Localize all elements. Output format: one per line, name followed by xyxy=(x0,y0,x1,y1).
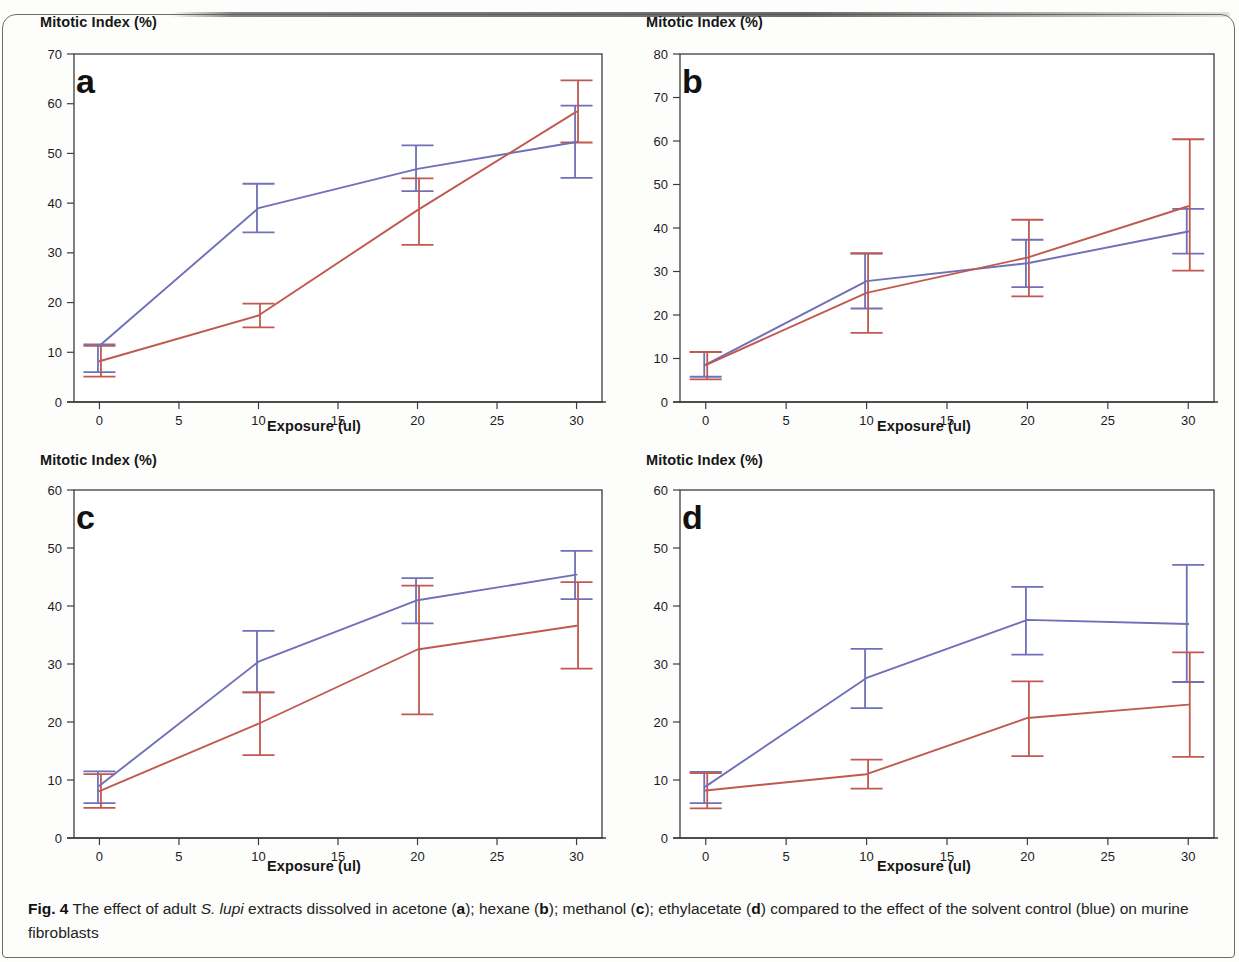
y-tick-label: 80 xyxy=(654,47,668,62)
y-tick-label: 30 xyxy=(654,264,668,279)
caption-text-3: ); hexane ( xyxy=(465,900,539,917)
panel-b-plot: 01020304050607080051015202530 xyxy=(620,14,1228,444)
caption-ref-d: d xyxy=(751,900,760,917)
chart-panel-grid: Mitotic Index (%) 0102030405060700510152… xyxy=(0,0,1239,886)
y-tick-label: 20 xyxy=(654,715,668,730)
y-tick-label: 60 xyxy=(654,483,668,498)
panel-a-plot: 010203040506070051015202530 xyxy=(14,14,614,444)
chart-panel-a: Mitotic Index (%) 0102030405060700510152… xyxy=(14,14,614,444)
caption-text-1: The effect of adult xyxy=(68,900,200,917)
y-tick-label: 10 xyxy=(654,773,668,788)
y-tick-label: 40 xyxy=(654,599,668,614)
y-tick-label: 60 xyxy=(48,96,62,111)
caption-text-4: ); methanol ( xyxy=(549,900,636,917)
plot-frame xyxy=(74,54,602,402)
y-tick-label: 30 xyxy=(48,245,62,260)
chart-panel-c: Mitotic Index (%) 0102030405060051015202… xyxy=(14,452,614,884)
panel-d-x-axis-title: Exposure (ul) xyxy=(620,858,1228,874)
figure-page: Mitotic Index (%) 0102030405060700510152… xyxy=(0,0,1239,962)
y-tick-label: 70 xyxy=(48,47,62,62)
panel-a-x-axis-title: Exposure (ul) xyxy=(14,418,614,434)
y-tick-label: 50 xyxy=(48,541,62,556)
caption-text-5: ); ethylacetate ( xyxy=(644,900,751,917)
y-tick-label: 0 xyxy=(661,395,668,410)
y-tick-label: 0 xyxy=(55,831,62,846)
caption-ref-b: b xyxy=(539,900,548,917)
plot-frame xyxy=(74,490,602,838)
plot-frame xyxy=(680,54,1214,402)
y-tick-label: 40 xyxy=(48,196,62,211)
caption-text-2: extracts dissolved in acetone ( xyxy=(244,900,457,917)
panel-c-letter: c xyxy=(76,500,95,534)
y-tick-label: 30 xyxy=(654,657,668,672)
figure-caption: Fig. 4 The effect of adult S. lupi extra… xyxy=(28,897,1208,945)
y-tick-label: 10 xyxy=(654,351,668,366)
panel-a-letter: a xyxy=(76,64,95,98)
panel-c-plot: 0102030405060051015202530 xyxy=(14,452,614,884)
y-tick-label: 0 xyxy=(55,395,62,410)
y-tick-label: 10 xyxy=(48,345,62,360)
chart-panel-b: Mitotic Index (%) 0102030405060708005101… xyxy=(620,14,1228,444)
y-tick-label: 0 xyxy=(661,831,668,846)
y-tick-label: 40 xyxy=(48,599,62,614)
y-tick-label: 20 xyxy=(48,295,62,310)
y-tick-label: 10 xyxy=(48,773,62,788)
y-tick-label: 60 xyxy=(654,134,668,149)
figure-label: Fig. 4 xyxy=(28,900,68,917)
panel-c-x-axis-title: Exposure (ul) xyxy=(14,858,614,874)
y-tick-label: 50 xyxy=(654,177,668,192)
y-tick-label: 20 xyxy=(654,308,668,323)
y-tick-label: 30 xyxy=(48,657,62,672)
panel-d-letter: d xyxy=(682,500,703,534)
caption-species: S. lupi xyxy=(201,900,244,917)
y-tick-label: 20 xyxy=(48,715,62,730)
y-tick-label: 50 xyxy=(48,146,62,161)
y-tick-label: 50 xyxy=(654,541,668,556)
panel-d-plot: 0102030405060051015202530 xyxy=(620,452,1228,884)
y-tick-label: 40 xyxy=(654,221,668,236)
panel-b-letter: b xyxy=(682,64,703,98)
panel-b-x-axis-title: Exposure (ul) xyxy=(620,418,1228,434)
y-tick-label: 70 xyxy=(654,90,668,105)
caption-ref-a: a xyxy=(457,900,466,917)
y-tick-label: 60 xyxy=(48,483,62,498)
chart-panel-d: Mitotic Index (%) 0102030405060051015202… xyxy=(620,452,1228,884)
